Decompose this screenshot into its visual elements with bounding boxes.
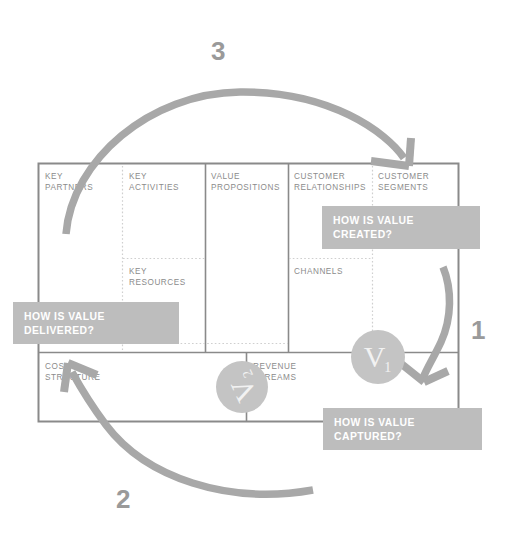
value-badge-v2: V2 (216, 361, 268, 413)
label-how-is-value-captured: HOW IS VALUE CAPTURED? (323, 408, 482, 450)
value-badge-v2-text: V2 (222, 368, 261, 407)
arrow-step-1-shaft (423, 267, 450, 378)
value-badge-v1: V1 (351, 330, 405, 384)
diagram-root: KEY PARTNERS KEY ACTIVITIES KEY RESOURCE… (0, 0, 510, 545)
label-how-is-value-created: HOW IS VALUE CREATED? (322, 206, 480, 249)
label-how-is-value-delivered: HOW IS VALUE DELIVERED? (13, 302, 179, 344)
step-number-3: 3 (211, 38, 225, 64)
arrow-step-2-shaft (72, 372, 313, 494)
flow-arrows (0, 0, 510, 545)
step-number-2: 2 (116, 486, 130, 512)
value-badge-v1-text: V1 (364, 342, 393, 372)
step-number-1: 1 (471, 317, 485, 343)
